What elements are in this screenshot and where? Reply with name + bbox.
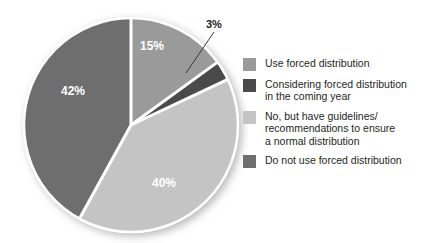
slice-label-15: 15% [140, 39, 164, 53]
legend-item[interactable]: Use forced distribution [243, 57, 443, 71]
legend-item[interactable]: Considering forced distribution in the c… [243, 78, 443, 103]
legend-swatch-icon [243, 155, 256, 168]
legend-item[interactable]: Do not use forced distribution [243, 154, 443, 168]
pie-chart-figure: 15% 42% 40% 3% Use forced distribution C… [0, 0, 443, 243]
legend-swatch-icon [243, 58, 256, 71]
slice-label-40: 40% [152, 176, 176, 190]
pie-chart-svg: 15% 42% 40% [0, 0, 248, 243]
legend-item-label: Use forced distribution [265, 57, 369, 69]
legend-item-label: Considering forced distribution in the c… [265, 78, 407, 103]
legend-swatch-icon [243, 79, 256, 92]
legend-swatch-icon [243, 111, 256, 124]
legend-item-label: No, but have guidelines/ recommendations… [265, 110, 395, 147]
slice-label-42: 42% [61, 84, 85, 98]
chart-area: 15% 42% 40% 3% [0, 0, 248, 243]
legend-item-label: Do not use forced distribution [265, 154, 402, 166]
legend-item[interactable]: No, but have guidelines/ recommendations… [243, 110, 443, 147]
legend: Use forced distribution Considering forc… [243, 57, 443, 175]
slice-label-3-callout: 3% [206, 18, 222, 30]
